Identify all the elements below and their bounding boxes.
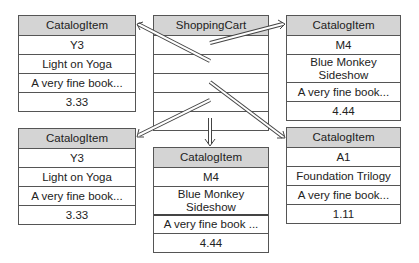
reference-arrows <box>0 0 419 263</box>
arrow-to-top-left <box>137 22 210 61</box>
arrow-to-bottom-left <box>137 100 210 137</box>
arrow-to-bottom-middle <box>205 118 215 146</box>
arrow-to-top-right <box>210 20 285 43</box>
arrow-to-bottom-right <box>210 82 285 138</box>
